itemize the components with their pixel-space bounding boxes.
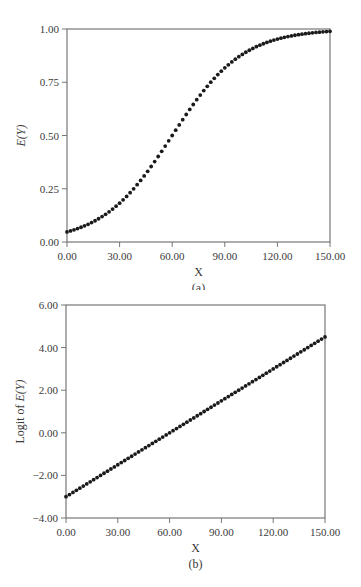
data-point — [223, 66, 227, 70]
data-points — [65, 29, 332, 233]
data-point — [300, 32, 304, 36]
x-tick-label: 0.00 — [56, 526, 76, 538]
data-point — [174, 128, 178, 132]
data-point — [257, 376, 261, 380]
data-point — [160, 149, 164, 153]
y-tick-label: 1.00 — [40, 23, 60, 35]
data-point — [170, 134, 174, 138]
data-point — [125, 194, 129, 198]
data-point — [325, 30, 329, 34]
data-point — [106, 469, 110, 473]
data-point — [184, 113, 188, 117]
data-point — [223, 397, 227, 401]
x-tick-label: 90.00 — [209, 526, 234, 538]
data-point — [230, 60, 234, 64]
data-point — [219, 69, 223, 73]
data-point — [144, 446, 148, 450]
x-tick-label: 120.00 — [262, 250, 293, 262]
data-point — [321, 30, 325, 34]
chart-a-plot: 0.000.250.500.751.000.0030.0060.0090.001… — [0, 0, 361, 290]
data-point — [182, 422, 186, 426]
data-point — [74, 488, 78, 492]
figure-caption: (a) — [192, 281, 205, 290]
data-point — [137, 450, 141, 454]
data-point — [76, 227, 80, 231]
data-point — [64, 495, 68, 499]
data-point — [209, 405, 213, 409]
figure-caption: (b) — [189, 557, 203, 571]
y-tick-label: 0.75 — [40, 76, 60, 88]
data-point — [132, 187, 136, 191]
data-point — [83, 224, 87, 228]
y-tick-label: 6.00 — [39, 299, 59, 311]
plot-frame — [66, 305, 325, 518]
data-point — [92, 478, 96, 482]
x-tick-label: 60.00 — [157, 526, 182, 538]
data-point — [118, 201, 122, 205]
data-point — [265, 41, 269, 45]
data-point — [247, 382, 251, 386]
x-tick-label: 120.00 — [258, 526, 289, 538]
data-point — [311, 31, 315, 35]
data-point — [116, 463, 120, 467]
data-point — [177, 123, 181, 127]
data-point — [72, 228, 76, 232]
y-tick-label: 2.00 — [39, 384, 59, 396]
data-point — [146, 169, 150, 173]
data-point — [275, 365, 279, 369]
data-point — [102, 471, 106, 475]
plot-frame — [67, 29, 330, 242]
data-point — [181, 118, 185, 122]
data-point — [272, 38, 276, 42]
data-point — [157, 437, 161, 441]
data-point — [126, 456, 130, 460]
data-point — [99, 474, 103, 478]
data-point — [261, 42, 265, 46]
data-point — [254, 378, 258, 382]
data-point — [216, 73, 220, 77]
data-point — [195, 98, 199, 102]
data-point — [85, 482, 89, 486]
data-point — [226, 63, 230, 67]
data-point — [68, 493, 72, 497]
data-point — [191, 103, 195, 107]
x-axis-label: X — [194, 265, 203, 279]
data-point — [302, 348, 306, 352]
data-point — [304, 32, 308, 36]
data-point — [216, 401, 220, 405]
data-point — [279, 36, 283, 40]
data-point — [168, 431, 172, 435]
y-axis-label: E(Y) — [14, 125, 28, 148]
data-point — [199, 412, 203, 416]
chart-b-plot: −4.00−2.000.002.004.006.000.0030.0060.00… — [0, 290, 361, 587]
data-point — [81, 484, 85, 488]
data-point — [147, 444, 151, 448]
data-point — [292, 354, 296, 358]
data-point — [88, 480, 92, 484]
data-point — [290, 34, 294, 38]
data-point — [175, 427, 179, 431]
data-point — [309, 344, 313, 348]
data-point — [237, 55, 241, 59]
data-point — [282, 361, 286, 365]
data-point — [316, 339, 320, 343]
data-point — [195, 414, 199, 418]
data-point — [220, 399, 224, 403]
data-point — [135, 183, 139, 187]
data-point — [95, 476, 99, 480]
data-point — [164, 433, 168, 437]
data-points — [64, 335, 327, 499]
data-point — [205, 84, 209, 88]
data-point — [107, 210, 111, 214]
data-point — [244, 384, 248, 388]
data-point — [283, 35, 287, 39]
data-point — [139, 179, 143, 183]
data-point — [268, 39, 272, 43]
data-point — [306, 346, 310, 350]
x-axis-label: X — [191, 541, 200, 555]
data-point — [109, 467, 113, 471]
data-point — [314, 31, 318, 35]
data-point — [320, 337, 324, 341]
data-point — [121, 198, 125, 202]
y-axis-label: Logit of E(Y) — [13, 380, 27, 444]
